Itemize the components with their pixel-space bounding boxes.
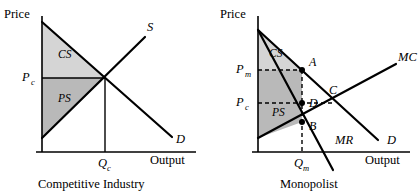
quantity-tick-subscript-left: c — [107, 163, 111, 173]
point-a-label: A — [308, 55, 317, 69]
quantity-tick-label-left: Q — [98, 156, 107, 170]
consumer-surplus-label-right: CS — [269, 47, 283, 59]
point-a-marker — [299, 67, 305, 73]
y-axis-label-left: Price — [4, 7, 30, 21]
panel-caption-right: Monopolist — [280, 177, 338, 191]
producer-surplus-label-left: PS — [57, 92, 71, 104]
producer-surplus-region-right — [258, 70, 302, 138]
monopoly-quantity-tick-subscript: m — [303, 163, 309, 173]
point-d-marker — [299, 100, 305, 106]
point-d-label: D — [308, 96, 318, 110]
panel-caption-left: Competitive Industry — [38, 177, 145, 191]
price-tick-label-left: P — [21, 70, 30, 84]
price-tick-subscript-left: c — [31, 77, 35, 87]
x-axis-label-left: Output — [150, 153, 185, 167]
point-b-label: B — [309, 119, 317, 133]
x-axis-label-right: Output — [365, 153, 400, 167]
competitive-industry-panel: Price Output S D CS PS P c Q c Competiti… — [0, 0, 210, 196]
monopoly-price-tick-subscript: m — [245, 69, 251, 79]
demand-curve-label-left: D — [175, 132, 185, 146]
competitive-price-tick-subscript: c — [245, 102, 249, 112]
consumer-surplus-label-left: CS — [58, 48, 72, 60]
y-axis-label-right: Price — [220, 7, 246, 21]
monopolist-panel: Price Output MC MR D CS PS A B C D P m P… — [210, 0, 419, 196]
demand-curve-label-right: D — [386, 133, 396, 147]
point-c-label: C — [329, 83, 338, 97]
marginal-cost-label: MC — [397, 50, 417, 64]
point-b-marker — [299, 119, 305, 125]
marginal-revenue-label: MR — [334, 133, 353, 147]
monopoly-quantity-tick-label: Q — [294, 156, 303, 170]
supply-curve-label: S — [147, 20, 154, 34]
economics-figure: Price Output S D CS PS P c Q c Competiti… — [0, 0, 419, 196]
monopoly-price-tick-label: P — [235, 62, 244, 76]
competitive-price-tick-label: P — [235, 95, 244, 109]
producer-surplus-label-right: PS — [271, 106, 285, 118]
